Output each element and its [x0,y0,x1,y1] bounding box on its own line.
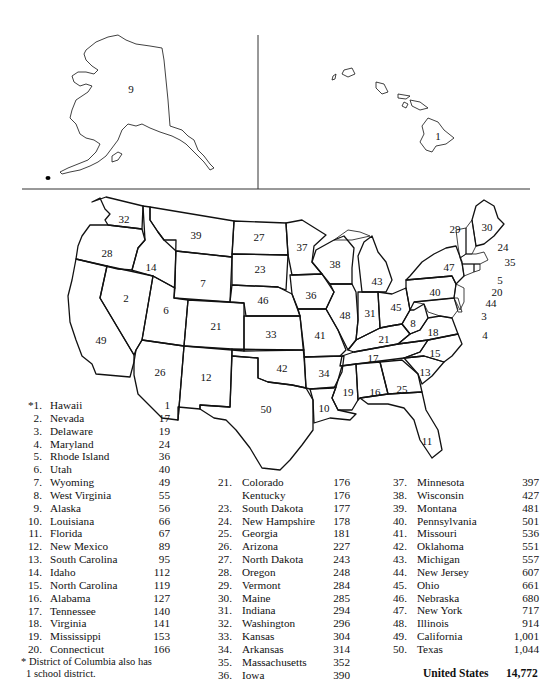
legend-value: 127 [110,592,170,605]
legend-rank: 15. [22,579,42,592]
map-label-rank-43: 43 [372,276,383,287]
legend-column-3: 37.Minnesota39738.Wisconsin42739.Montana… [387,476,547,656]
island-molokai [398,94,410,99]
legend-value: 243 [302,553,350,566]
legend-rank: 38. [387,489,407,502]
legend-state-name: Wisconsin [417,489,464,502]
legend-rank: 32. [212,617,232,630]
legend-state-name: Arizona [242,540,278,553]
map-label-rank-25: 25 [397,384,408,395]
legend-state-name: Tennessee [50,605,96,618]
legend-row: 23.South Dakota177 [212,502,362,515]
map-label-rank-34: 34 [319,368,330,379]
legend-rank: 35. [212,656,232,669]
legend-row: 18.Virginia141 [22,617,182,630]
legend-value: 227 [302,540,350,553]
legend-rank: 4. [22,438,42,451]
legend-value: 680 [477,592,539,605]
state-florida [360,392,442,458]
map-label-alaska: 9 [128,84,134,95]
legend-value: 24 [110,438,170,451]
legend-rank: 47. [387,604,407,617]
map-label-rank-21: 21 [379,334,390,345]
legend-row: 28.Oregon248 [212,566,362,579]
map-label-rank-17: 17 [368,353,379,364]
legend-rank: 48. [387,617,407,630]
legend-value: 284 [302,579,350,592]
map-label-rank-46: 46 [258,295,269,306]
legend-rank: 26. [212,540,232,553]
legend-rank: 24. [212,515,232,528]
map-label-rank-41: 41 [315,330,326,341]
legend-row: 40.Pennsylvania501 [387,515,547,528]
legend-state-name: Nevada [50,412,84,425]
map-label-rank-3: 3 [481,311,487,322]
legend-row: 3.Delaware19 [22,425,182,438]
legend-value: 1,044 [477,643,539,656]
legend-row: 36.Iowa390 [212,669,362,682]
island-maui [410,100,428,110]
footnote-line-1: * District of Columbia also has [21,656,152,668]
map-label-rank-23: 23 [255,264,266,275]
map-label-rank-4: 4 [482,330,488,341]
legend-row: 20.Connecticut166 [22,643,182,656]
legend-row: Kentucky176 [212,489,362,502]
map-label-rank-16: 16 [370,387,381,398]
legend-row: 45.Ohio661 [387,579,547,592]
legend-value: 248 [302,566,350,579]
legend-row: 8.West Virginia55 [22,489,182,502]
legend-state-name: Mississippi [50,630,101,643]
legend-state-name: Connecticut [50,643,104,656]
legend-value: 40 [110,463,170,476]
legend-value: 427 [477,489,539,502]
legend-rank: 40. [387,515,407,528]
legend-row: 44.New Jersey607 [387,566,547,579]
legend-row: 15.North Carolina119 [22,579,182,592]
legend-state-name: Idaho [50,566,75,579]
legend-state-name: Colorado [242,476,284,489]
legend-state-name: Kansas [242,630,274,643]
legend-row: 2.Nevada17 [22,412,182,425]
legend-value: 390 [302,669,350,682]
map-label-rank-7: 7 [200,278,206,289]
legend-rank: 25. [212,527,232,540]
legend-row: 50.Texas1,044 [387,643,547,656]
legend-state-name: Washington [242,617,295,630]
legend-state-name: Maryland [50,438,94,451]
legend-rank: 16. [22,592,42,605]
map-label-rank-37: 37 [297,242,308,253]
legend-rank: 41. [387,527,407,540]
map-label-rank-27: 27 [254,232,265,243]
legend-value: 49 [110,476,170,489]
legend-row: 13.South Carolina95 [22,553,182,566]
legend-row: 37.Minnesota397 [387,476,547,489]
legend-rank: 29. [212,579,232,592]
legend-rank: 13. [22,553,42,566]
total-label: United States [423,667,489,679]
legend-row: 39.Montana481 [387,502,547,515]
map-label-rank-44: 44 [486,298,497,309]
legend-value: 314 [302,643,350,656]
legend-value: 294 [302,604,350,617]
legend-rank: 36. [212,669,232,682]
legend-value: 95 [110,553,170,566]
legend-rank: 23. [212,502,232,515]
map-label-rank-26: 26 [155,367,166,378]
legend-row: *1.Hawaii1 [22,399,182,412]
legend-column-1: *1.Hawaii12.Nevada173.Delaware194.Maryla… [22,399,182,656]
legend-value: 141 [110,617,170,630]
legend-row: 47.New York717 [387,604,547,617]
legend-rank: *1. [22,399,42,412]
map-label-rank-11: 11 [422,436,433,447]
legend-state-name: Arkansas [242,643,284,656]
legend-value: 296 [302,617,350,630]
legend-row: 11.Florida67 [22,527,182,540]
legend-value: 717 [477,604,539,617]
legend-state-name: Louisiana [50,515,94,528]
legend-rank: 19. [22,630,42,643]
legend-row: 5.Rhode Island36 [22,450,182,463]
legend-rank: 30. [212,592,232,605]
legend-value: 67 [110,527,170,540]
footnote: * District of Columbia also has 1 school… [21,656,152,680]
legend-value: 551 [477,540,539,553]
